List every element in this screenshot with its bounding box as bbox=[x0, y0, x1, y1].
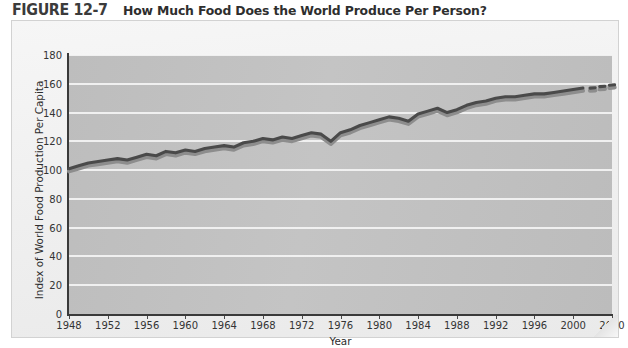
x-tick-label: 1968 bbox=[250, 320, 275, 331]
plot-area bbox=[69, 55, 612, 314]
y-tick-label: 20 bbox=[12, 280, 62, 291]
x-axis-line bbox=[67, 314, 613, 316]
x-axis-title: Year bbox=[69, 335, 612, 347]
y-tick-label: 180 bbox=[12, 50, 62, 61]
x-tick-label: 1976 bbox=[328, 320, 353, 331]
x-tick-label: 1992 bbox=[483, 320, 508, 331]
x-tick-label: 1948 bbox=[56, 320, 81, 331]
y-tick-label: 160 bbox=[12, 78, 62, 89]
y-tick-label: 80 bbox=[12, 193, 62, 204]
y-tick-label: 140 bbox=[12, 107, 62, 118]
x-tick-label: 1956 bbox=[134, 320, 159, 331]
figure-root: FIGURE 12-7 How Much Food Does the World… bbox=[0, 0, 628, 348]
y-tick-label: 60 bbox=[12, 222, 62, 233]
x-tick-label: 1988 bbox=[444, 320, 469, 331]
series-layer bbox=[69, 55, 612, 314]
series-projection-dashes bbox=[590, 85, 615, 91]
y-tick-label: 0 bbox=[12, 309, 62, 320]
x-tick-label: 1996 bbox=[522, 320, 547, 331]
x-tick-label: 2000 bbox=[560, 320, 585, 331]
figure-number: FIGURE 12-7 bbox=[12, 1, 108, 19]
page-corner-fold bbox=[592, 315, 618, 337]
x-tick-label: 1984 bbox=[405, 320, 430, 331]
x-tick-label: 1972 bbox=[289, 320, 314, 331]
series-shadow bbox=[69, 91, 583, 172]
figure-panel: Index of World Food Production Per Capit… bbox=[11, 20, 619, 338]
y-tick-label: 100 bbox=[12, 165, 62, 176]
x-tick-label: 1952 bbox=[95, 320, 120, 331]
x-tick-label: 1964 bbox=[211, 320, 236, 331]
y-tick-label: 40 bbox=[12, 251, 62, 262]
x-tick-label: 1980 bbox=[367, 320, 392, 331]
figure-title: How Much Food Does the World Produce Per… bbox=[123, 3, 487, 18]
x-tick-label: 1960 bbox=[173, 320, 198, 331]
figure-caption: FIGURE 12-7 How Much Food Does the World… bbox=[12, 1, 487, 19]
y-tick-label: 120 bbox=[12, 136, 62, 147]
